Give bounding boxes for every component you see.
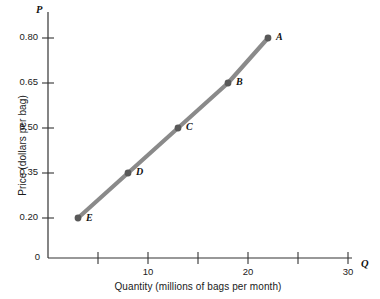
point-label-C: C <box>186 121 193 132</box>
x-tick-label-10: 10 <box>128 266 168 277</box>
y-axis-title: Price (dollars per bag) <box>17 76 28 216</box>
point-label-E: E <box>86 212 93 223</box>
chart-plot-area <box>0 0 380 299</box>
x-axis-title: Quantity (millions of bags per month) <box>48 281 348 292</box>
data-point-A <box>265 35 272 42</box>
y-tick-label-080: 0.80 <box>8 31 38 42</box>
origin-tick-label: 0 <box>22 251 40 262</box>
point-label-B: B <box>236 76 243 87</box>
x-tick-label-30: 30 <box>328 266 368 277</box>
y-axis-symbol: P <box>36 4 42 15</box>
data-point-C <box>175 125 182 132</box>
supply-curve-chart: P Q 0 0.80 0.65 0.50 0.35 0.20 10 20 30 … <box>0 0 380 299</box>
x-tick-label-20: 20 <box>228 266 268 277</box>
data-point-E <box>75 215 82 222</box>
supply-curve-line <box>78 38 268 218</box>
data-point-B <box>225 80 232 87</box>
point-label-D: D <box>136 166 143 177</box>
point-label-A: A <box>276 31 283 42</box>
data-point-D <box>125 170 132 177</box>
